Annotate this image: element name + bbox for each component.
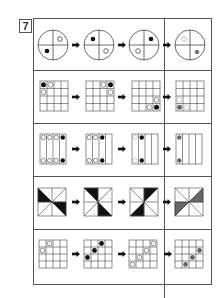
circle-figure-2 xyxy=(84,30,114,60)
circle-figure-answer xyxy=(175,30,205,60)
puzzle-figures xyxy=(0,0,224,298)
circle-figure-1 xyxy=(38,30,68,60)
circle-figure-3 xyxy=(129,30,159,60)
